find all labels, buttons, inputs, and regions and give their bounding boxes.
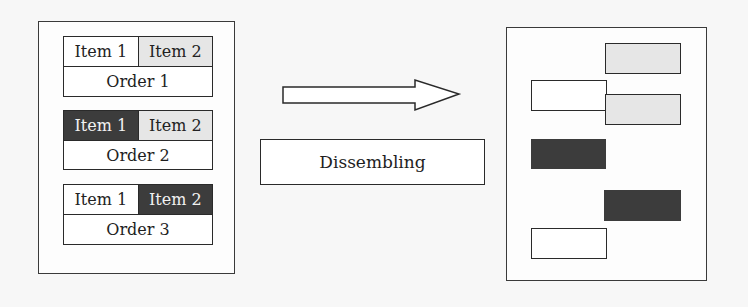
dissembling-label: Dissembling [319,152,425,172]
order-2-items: Item 1 Item 2 [64,111,212,141]
order-3-label: Order 3 [64,215,212,244]
order-block-2: Item 1 Item 2 Order 2 [63,110,213,170]
order-2-label: Order 2 [64,141,212,169]
order-2-item-1: Item 1 [64,111,139,140]
order-1-item-1: Item 1 [64,37,139,66]
order-3-item-2: Item 2 [139,185,213,214]
dark-piece-1 [531,139,606,169]
order-3-item-1: Item 1 [64,185,139,214]
dark-piece-2 [604,190,681,221]
order-block-3: Item 1 Item 2 Order 3 [63,184,213,245]
white-piece-1 [531,80,607,111]
right-arrow-icon [280,76,465,116]
order-1-item-2: Item 2 [139,37,213,66]
order-3-items: Item 1 Item 2 [64,185,212,215]
dissembling-label-box: Dissembling [260,139,485,185]
light-piece-2 [605,94,681,125]
order-block-1: Item 1 Item 2 Order 1 [63,36,213,97]
white-piece-2 [531,228,607,259]
order-2-item-2: Item 2 [139,111,213,140]
light-piece-1 [605,43,681,74]
order-1-label: Order 1 [64,67,212,96]
order-1-items: Item 1 Item 2 [64,37,212,67]
